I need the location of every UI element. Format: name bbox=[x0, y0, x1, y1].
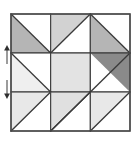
quilt-cell-r3c3[interactable] bbox=[90, 92, 130, 131]
cell-r2c2-center-square bbox=[51, 53, 91, 92]
arrow-down-icon bbox=[4, 94, 10, 100]
quilt-cell-r1c1[interactable] bbox=[11, 14, 51, 53]
quilt-cell-r1c2[interactable] bbox=[51, 14, 91, 53]
quilt-cell-r2c2[interactable] bbox=[51, 53, 91, 92]
measure-marker-upper[interactable] bbox=[4, 45, 10, 64]
quilt-cell-r2c1[interactable] bbox=[11, 53, 51, 92]
quilt-cell-r3c2[interactable] bbox=[51, 92, 91, 131]
quilt-block-figure bbox=[0, 0, 136, 143]
arrow-up-icon bbox=[4, 45, 10, 51]
quilt-cell-r3c1[interactable] bbox=[11, 92, 51, 131]
quilt-cell-r1c3[interactable] bbox=[90, 14, 130, 53]
measure-marker-lower[interactable] bbox=[4, 80, 10, 99]
quilt-cell-r2c3[interactable] bbox=[90, 53, 130, 92]
quilt-block-canvas bbox=[0, 0, 136, 143]
